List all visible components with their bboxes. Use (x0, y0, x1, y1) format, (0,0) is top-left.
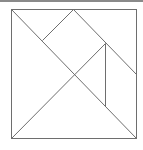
tangram-lines (12, 10, 137, 139)
tangram-diagram (0, 0, 143, 150)
top-apex-left-line (43, 10, 74, 41)
